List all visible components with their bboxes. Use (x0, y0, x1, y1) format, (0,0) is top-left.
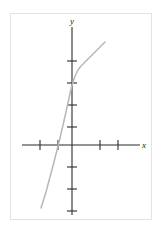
figure-root: x y (0, 0, 165, 233)
y-axis-label: y (69, 16, 74, 26)
function-curve (41, 42, 105, 208)
x-axis-label: x (141, 140, 146, 150)
coordinate-plane-svg: x y (0, 0, 165, 233)
